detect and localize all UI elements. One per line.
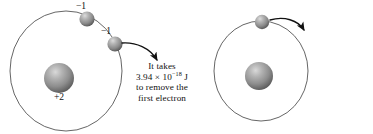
caption-line-energy-value: 3.94 × 10−18 J	[124, 72, 200, 83]
nucleus-sphere	[245, 62, 273, 90]
ionization-energy-figure: −1 −1 +2 It takes 3.94 × 10−18 J to remo…	[0, 0, 373, 134]
energy-mantissa: 3.94 × 10	[136, 72, 172, 82]
first-ionization-caption: It takes 3.94 × 10−18 J to remove the fi…	[124, 61, 200, 103]
electron-sphere-1	[255, 15, 269, 29]
energy-exponent: −18	[172, 70, 182, 77]
electron-sphere-2	[107, 36, 122, 51]
nucleus-sphere	[44, 63, 74, 93]
electron-charge-label-2: −1	[97, 26, 115, 36]
first-ionization-panel: −1 −1 +2 It takes 3.94 × 10−18 J to remo…	[0, 0, 200, 134]
electron-sphere-1	[79, 11, 94, 26]
caption-line-which-electron: first electron	[124, 93, 200, 104]
energy-unit: J	[182, 72, 188, 82]
electron-removal-arrow	[270, 18, 304, 30]
nucleus-charge-label: +2	[48, 92, 70, 102]
electron-charge-label-1: −1	[72, 1, 90, 11]
caption-line-to-remove: to remove the	[124, 82, 200, 93]
right-atom-graphic	[200, 0, 373, 134]
caption-line-it-takes: It takes	[124, 61, 200, 72]
electron-removal-arrow	[122, 43, 157, 60]
second-ionization-panel: −1 +2 It takes 8.72 × 10−18 J to remove …	[200, 0, 373, 134]
